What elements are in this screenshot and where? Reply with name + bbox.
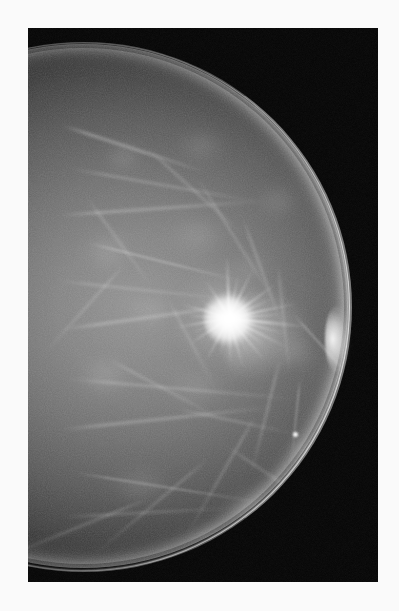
nipple-marker xyxy=(325,306,351,372)
trabecular-line xyxy=(250,359,281,476)
trabecular-line xyxy=(88,242,244,283)
lobular-density xyxy=(158,208,240,264)
lobular-density xyxy=(208,480,292,534)
mammogram-page xyxy=(0,0,399,611)
lobular-density xyxy=(248,178,310,226)
film-margin-top xyxy=(0,0,399,28)
lobular-density-texture xyxy=(28,44,348,568)
trabecular-line xyxy=(72,168,259,203)
punctate-density xyxy=(293,432,298,437)
trabecular-line xyxy=(197,178,278,306)
trabecular-line xyxy=(147,148,245,236)
trabecular-line xyxy=(28,498,148,560)
trabecular-line xyxy=(68,378,297,400)
lobular-density xyxy=(168,124,238,170)
trabecular-line xyxy=(62,300,260,331)
trabecular-line xyxy=(62,406,276,431)
breast-silhouette xyxy=(28,44,348,568)
trabecular-line xyxy=(58,199,268,217)
trabecular-line xyxy=(87,198,153,288)
trabecular-line xyxy=(92,458,208,556)
trabecular-line xyxy=(62,124,206,173)
trabecular-line xyxy=(58,280,237,301)
trabecular-line xyxy=(108,358,224,421)
lobular-density xyxy=(264,328,334,380)
trabecular-line xyxy=(277,265,290,375)
trabecular-line xyxy=(185,415,257,537)
fibroglandular-tissue-texture xyxy=(28,44,348,568)
trabecular-line xyxy=(227,446,319,509)
lobular-density xyxy=(76,228,142,278)
trabecular-line xyxy=(167,299,216,388)
lobular-density xyxy=(124,290,184,334)
lobular-density xyxy=(154,358,242,418)
trabecular-line xyxy=(64,507,239,518)
lobular-density xyxy=(278,430,338,476)
lobular-density xyxy=(98,138,152,178)
film-grain-overlay xyxy=(28,44,348,568)
trabecular-line xyxy=(178,408,296,435)
lobular-density xyxy=(68,348,144,406)
trabecular-line xyxy=(76,472,264,504)
film-margin-left xyxy=(0,0,28,611)
trabecular-line xyxy=(43,264,125,355)
radiograph-film xyxy=(28,28,378,582)
lobular-density xyxy=(98,458,188,514)
film-margin-bottom xyxy=(0,582,399,611)
lobular-density xyxy=(224,248,280,288)
trabecular-line xyxy=(291,379,301,459)
film-margin-right xyxy=(378,0,399,611)
lobular-density xyxy=(180,524,250,568)
trabecular-line xyxy=(242,219,285,332)
